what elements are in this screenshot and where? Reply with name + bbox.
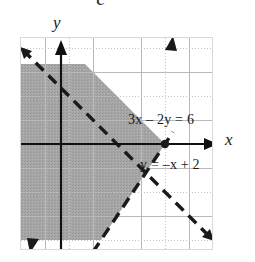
y-axis-label: y: [53, 13, 61, 33]
graph-svg: [21, 38, 213, 250]
arrowhead-x-axis: [204, 138, 213, 150]
figure-caption-glyph: c: [88, 0, 114, 7]
arrowhead-y-axis: [55, 40, 67, 55]
plot-area: [20, 37, 213, 250]
arrowhead-line1-lower-left: [27, 238, 39, 250]
equation-label-line-2: y = –x + 2: [140, 157, 200, 173]
equation-label-line-1: 3x – 2y = 6: [128, 112, 194, 128]
intersection-point: [161, 140, 169, 148]
coordinate-plane-figure: c: [0, 0, 255, 262]
x-axis-label: x: [225, 130, 233, 150]
arrowhead-line1-upper-right: [165, 38, 177, 51]
